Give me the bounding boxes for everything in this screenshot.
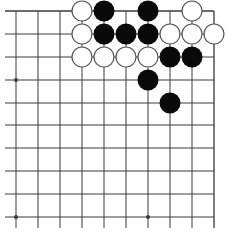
board-grid — [5, 11, 214, 228]
star-point — [14, 78, 18, 82]
go-board — [0, 0, 226, 239]
black-stone — [160, 93, 181, 114]
white-stone — [72, 1, 92, 21]
white-stone — [72, 47, 92, 67]
white-stone — [116, 47, 136, 67]
star-point — [146, 215, 150, 219]
black-stone — [160, 47, 181, 68]
black-stone — [116, 24, 137, 45]
white-stone — [138, 47, 158, 67]
white-stone — [72, 24, 92, 44]
black-stone — [138, 24, 159, 45]
black-stone — [138, 70, 159, 91]
star-point — [14, 215, 18, 219]
white-stone — [160, 24, 180, 44]
black-stone — [138, 1, 159, 22]
white-stone — [182, 24, 202, 44]
black-stone — [94, 24, 115, 45]
white-stone — [94, 47, 114, 67]
white-stone — [182, 1, 202, 21]
white-stone — [204, 24, 224, 44]
black-stone — [182, 47, 203, 68]
black-stone — [94, 1, 115, 22]
